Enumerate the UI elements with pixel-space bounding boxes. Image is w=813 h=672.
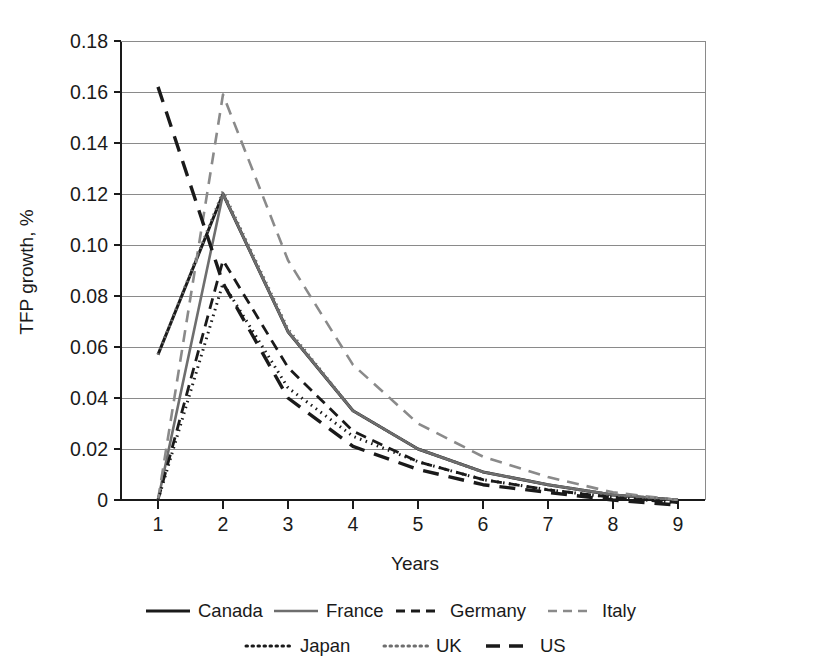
legend-label-italy: Italy	[602, 600, 637, 621]
x-tick-label-6: 7	[543, 513, 554, 535]
tfp-growth-line-chart: 123456789 00.020.040.060.080.100.120.140…	[0, 0, 813, 672]
y-tick-label-6: 0.12	[70, 183, 108, 205]
x-tick-label-3: 4	[348, 513, 359, 535]
legend-label-france: France	[326, 600, 384, 621]
x-axis-label: Years	[391, 553, 439, 574]
y-tick-label-9: 0.18	[70, 30, 108, 52]
x-tick-label-5: 6	[478, 513, 489, 535]
legend-label-us: US	[540, 635, 566, 656]
y-tick-label-0: 0	[97, 489, 108, 511]
y-tick-label-7: 0.14	[70, 132, 108, 154]
y-tick-label-5: 0.10	[70, 234, 108, 256]
legend-label-uk: UK	[436, 635, 462, 656]
y-tick-label-4: 0.08	[70, 285, 108, 307]
y-axis-label: TFP growth, %	[16, 209, 37, 334]
y-tick-label-3: 0.06	[70, 336, 108, 358]
legend-label-canada: Canada	[198, 600, 264, 621]
x-tick-label-2: 3	[283, 513, 294, 535]
x-tick-label-0: 1	[153, 513, 164, 535]
legend-label-japan: Japan	[300, 635, 350, 656]
y-tick-label-2: 0.04	[70, 387, 108, 409]
x-tick-label-1: 2	[218, 513, 229, 535]
x-tick-label-7: 8	[608, 513, 619, 535]
y-tick-label-8: 0.16	[70, 81, 108, 103]
legend-label-germany: Germany	[450, 600, 527, 621]
x-tick-label-8: 9	[673, 513, 684, 535]
x-tick-label-4: 5	[413, 513, 424, 535]
y-tick-label-1: 0.02	[70, 438, 108, 460]
